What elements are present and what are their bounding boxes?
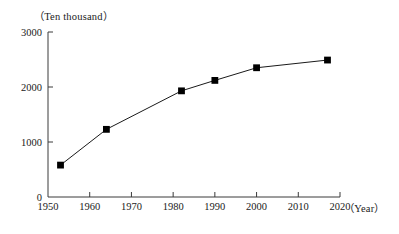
data-point-marker bbox=[253, 64, 260, 71]
data-point-marker bbox=[324, 57, 331, 64]
data-point-marker bbox=[103, 126, 110, 133]
data-point-marker bbox=[178, 87, 185, 94]
data-line bbox=[61, 60, 328, 165]
line-chart: （Ten thousand） （Year） 0100020003000 1950… bbox=[0, 0, 399, 234]
data-point-marker bbox=[57, 162, 64, 169]
plot-area bbox=[0, 0, 399, 234]
data-point-marker bbox=[211, 77, 218, 84]
